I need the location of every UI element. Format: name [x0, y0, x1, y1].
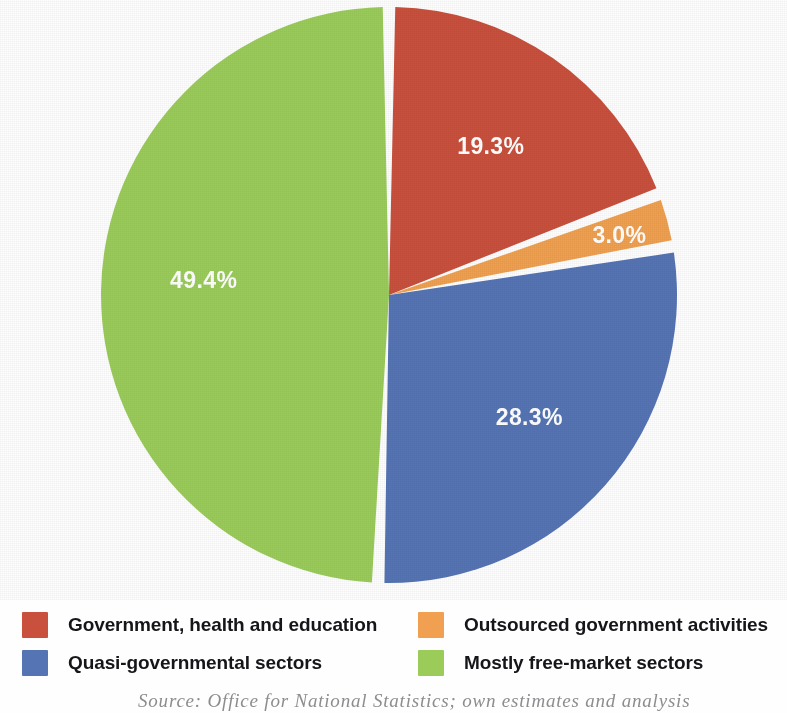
- legend-label-quasi-governmental-sectors: Quasi-governmental sectors: [68, 652, 322, 674]
- source-note-text: Source: Office for National Statistics; …: [138, 690, 690, 712]
- legend-swatch-icon-orange: [418, 612, 444, 638]
- legend-swatch-icon-red: [22, 612, 48, 638]
- legend-item-outsourced-government-activities[interactable]: Outsourced government activities: [400, 606, 787, 644]
- pie-slice-value-label-2: 3.0%: [592, 222, 646, 248]
- source-note: Source: Office for National Statistics; …: [0, 690, 787, 713]
- pie-slice-value-label-4: 49.4%: [170, 267, 237, 293]
- legend-item-quasi-governmental-sectors[interactable]: Quasi-governmental sectors: [0, 644, 400, 682]
- pie-slice-value-label-3: 28.3%: [496, 404, 563, 430]
- chart-legend: Government, health and education Outsour…: [0, 606, 787, 682]
- legend-swatch-icon-green: [418, 650, 444, 676]
- pie-chart-figure: 19.3%3.0%28.3%49.4% Government, health a…: [0, 0, 787, 713]
- pie-slices-group: [101, 7, 677, 583]
- legend-label-mostly-free-market-sectors: Mostly free-market sectors: [464, 652, 703, 674]
- legend-swatch-icon-blue: [22, 650, 48, 676]
- legend-item-mostly-free-market-sectors[interactable]: Mostly free-market sectors: [400, 644, 787, 682]
- pie-chart-area: 19.3%3.0%28.3%49.4%: [0, 0, 787, 600]
- legend-item-government-health-education[interactable]: Government, health and education: [0, 606, 400, 644]
- pie-slice-4[interactable]: [101, 7, 389, 582]
- pie-chart-svg: 19.3%3.0%28.3%49.4%: [0, 0, 787, 600]
- legend-label-outsourced-government-activities: Outsourced government activities: [464, 614, 768, 636]
- legend-label-government-health-education: Government, health and education: [68, 614, 377, 636]
- pie-slice-value-label-1: 19.3%: [457, 133, 524, 159]
